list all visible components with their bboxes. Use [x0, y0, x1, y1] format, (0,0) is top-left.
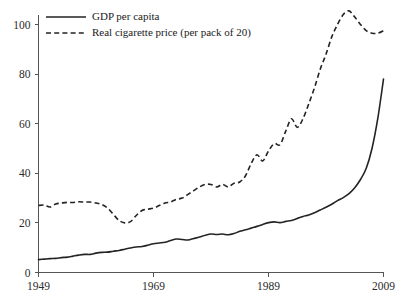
line-chart: 020406080100 1949196919892009 GDP per ca…: [0, 0, 408, 302]
y-axis-tick-label: 40: [19, 167, 31, 179]
chart-legend: GDP per capitaReal cigarette price (per …: [46, 10, 251, 39]
x-axis-tick-label: 1989: [257, 280, 280, 292]
y-axis-tick-label: 60: [19, 118, 31, 130]
legend-label: GDP per capita: [92, 10, 160, 22]
x-axis-tick-labels: 1949196919892009: [27, 280, 395, 292]
legend-label: Real cigarette price (per pack of 20): [92, 26, 251, 39]
series-line-gdp-per-capita: [39, 79, 384, 260]
chart-tick-marks: [35, 25, 384, 277]
y-axis-tick-labels: 020406080100: [13, 19, 31, 279]
x-axis-tick-label: 1949: [27, 280, 50, 292]
x-axis-tick-label: 1969: [142, 280, 165, 292]
series-line-cigarette-price: [39, 11, 384, 223]
x-axis-tick-label: 2009: [372, 280, 395, 292]
y-axis-tick-label: 80: [19, 68, 31, 80]
y-axis-tick-label: 0: [25, 267, 31, 279]
chart-series-lines: [39, 11, 384, 260]
y-axis-tick-label: 100: [13, 19, 31, 31]
chart-container: 020406080100 1949196919892009 GDP per ca…: [0, 0, 408, 302]
y-axis-tick-label: 20: [19, 217, 31, 229]
